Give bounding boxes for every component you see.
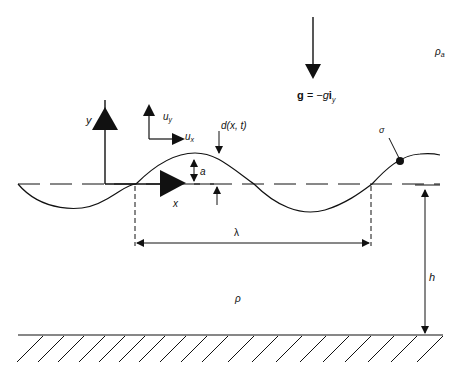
amplitude-label: a — [200, 166, 206, 177]
wave-surface — [18, 153, 440, 212]
surface-tension-label: σ — [379, 125, 385, 135]
displacement-label: d(x, t) — [221, 120, 247, 131]
u-x-label: ux — [185, 131, 195, 143]
y-axis-label: y — [85, 114, 93, 126]
surface-tension-dot-icon — [396, 157, 404, 165]
seabed-hatching — [17, 336, 443, 362]
wavelength-label: λ — [234, 227, 239, 238]
gravity-label: g = −giy — [297, 89, 336, 104]
fluid-density-label: ρ — [234, 293, 241, 304]
x-axis-icon — [160, 170, 186, 197]
wave-diagram: g = −giy ρa σ y x uy ux d(x, t) a — [0, 0, 460, 377]
surface-tension-pointer — [389, 138, 400, 160]
x-axis-label: x — [172, 198, 179, 209]
u-y-label: uy — [163, 111, 173, 124]
depth-label: h — [429, 271, 435, 283]
gravity-arrow-icon — [305, 17, 321, 79]
air-density-label: ρa — [434, 46, 445, 58]
